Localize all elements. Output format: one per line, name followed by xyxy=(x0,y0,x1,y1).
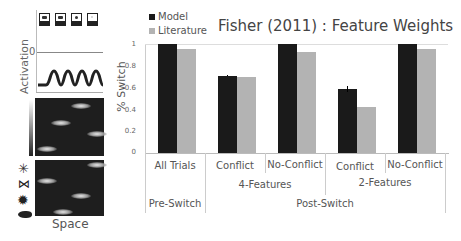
separator xyxy=(445,153,446,213)
bar-model-all-trials xyxy=(158,44,177,153)
x-label-4f-conflict: Conflict xyxy=(205,160,265,171)
x-label-2-features: 2-Features xyxy=(325,177,445,188)
bar-literature-4f-conflict xyxy=(237,77,256,153)
bar-model-4f-no-conflict xyxy=(278,44,297,153)
heatmap-bottom xyxy=(35,160,104,216)
x-label-4f-no-conflict: No-Conflict xyxy=(265,159,325,170)
zero-tick-label: 0 xyxy=(29,46,35,57)
activation-wave xyxy=(36,62,104,90)
x-label-2f-conflict: Conflict xyxy=(325,161,385,172)
y-tick: 1 xyxy=(118,40,136,48)
error-bar xyxy=(227,75,228,76)
y-tick: 0.6 xyxy=(118,84,136,92)
feature-icon-box-2 xyxy=(55,13,66,26)
legend-swatch-literature xyxy=(149,28,155,34)
legend-item-model: Model xyxy=(149,11,188,22)
activation-zero-line xyxy=(36,52,103,53)
bar-literature-4f-no-conflict xyxy=(297,52,316,153)
bar-literature-2f-no-conflict xyxy=(417,49,436,153)
error-bar xyxy=(347,86,348,92)
star-icon: ✳ xyxy=(18,162,29,175)
x-axis-line xyxy=(145,153,449,154)
y-tick: 0.4 xyxy=(118,106,136,114)
plot-area xyxy=(146,44,449,153)
y-tick: 0 xyxy=(118,148,136,156)
bar-model-2f-no-conflict xyxy=(398,44,417,153)
chart-title: Fisher (2011) : Feature Weights xyxy=(218,17,453,35)
bar-literature-2f-conflict xyxy=(357,107,376,153)
activation-axis-bottom xyxy=(36,92,103,93)
feature-icon-box-3 xyxy=(71,13,82,26)
x-label-2f-no-conflict: No-Conflict xyxy=(385,159,445,170)
space-axis-label: Space xyxy=(52,217,89,231)
feature-icon-box-4 xyxy=(87,13,98,26)
feature-icon-box-1 xyxy=(39,13,50,26)
flower-icon: ✹ xyxy=(17,193,29,207)
x-label-all-trials: All Trials xyxy=(145,160,205,171)
y-tick: 0.2 xyxy=(118,127,136,135)
x-label-4-features: 4-Features xyxy=(205,179,325,190)
fish-icon xyxy=(18,211,32,218)
colorbar xyxy=(29,100,33,156)
legend-swatch-model xyxy=(149,14,155,20)
heatmap-top xyxy=(35,98,104,156)
bar-model-2f-conflict xyxy=(338,89,357,153)
y-tick: 0.8 xyxy=(118,62,136,70)
x-label-post-switch: Post-Switch xyxy=(205,198,445,209)
butterfly-icon: ⋈ xyxy=(18,178,30,190)
x-label-pre-switch: Pre-Switch xyxy=(145,198,205,209)
legend-item-literature: Literature xyxy=(149,25,207,36)
bar-model-4f-conflict xyxy=(218,76,237,153)
bar-literature-all-trials xyxy=(177,49,196,153)
separator xyxy=(325,153,326,195)
